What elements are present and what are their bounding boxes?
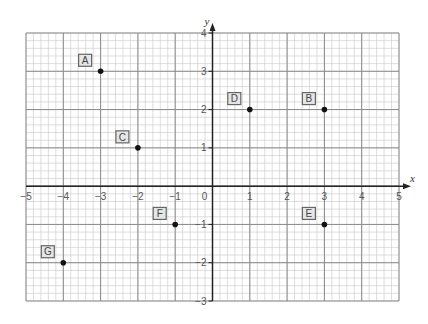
y-tick-label: −1 (195, 219, 207, 230)
point-dot-icon (61, 260, 67, 266)
x-tick-label: 4 (359, 191, 365, 202)
y-axis-label: y (204, 15, 210, 27)
y-tick-label: 2 (201, 104, 207, 115)
point-label: A (82, 55, 89, 66)
y-tick-label: 4 (201, 28, 207, 39)
x-tick-label: −5 (20, 191, 32, 202)
tick-labels: −5−4−3−2−1012345−3−2−11234 (20, 28, 402, 307)
y-tick-label: −3 (195, 296, 207, 307)
point-label: E (306, 208, 313, 219)
point-dot-icon (322, 107, 328, 113)
point-dot-icon (172, 222, 178, 228)
y-tick-label: 3 (201, 66, 207, 77)
x-tick-label: 0 (202, 191, 208, 202)
point-label: F (157, 208, 163, 219)
point-dot-icon (135, 145, 141, 151)
x-tick-label: 1 (247, 191, 253, 202)
coordinate-plane: xy −5−4−3−2−1012345−3−2−11234 ABCDEFG (0, 0, 428, 324)
point-dot-icon (247, 107, 253, 113)
x-tick-label: −4 (58, 191, 70, 202)
plotted-points: ABCDEFG (41, 54, 327, 265)
x-tick-label: 2 (284, 191, 290, 202)
y-tick-label: 1 (201, 142, 207, 153)
point-label: D (231, 93, 238, 104)
coordinate-grid-diagram: xy −5−4−3−2−1012345−3−2−11234 ABCDEFG (0, 0, 428, 324)
y-tick-label: −2 (195, 257, 207, 268)
point-label: C (119, 132, 126, 143)
point-dot-icon (98, 68, 104, 74)
point-label: G (44, 246, 52, 257)
x-tick-label: −2 (132, 191, 144, 202)
x-tick-label: −1 (169, 191, 181, 202)
point-dot-icon (322, 222, 328, 228)
x-tick-label: −3 (95, 191, 107, 202)
x-tick-label: 3 (322, 191, 328, 202)
x-axis-label: x (409, 172, 415, 184)
x-tick-label: 5 (396, 191, 402, 202)
point-label: B (306, 93, 313, 104)
y-axis-arrow-icon (210, 23, 216, 31)
